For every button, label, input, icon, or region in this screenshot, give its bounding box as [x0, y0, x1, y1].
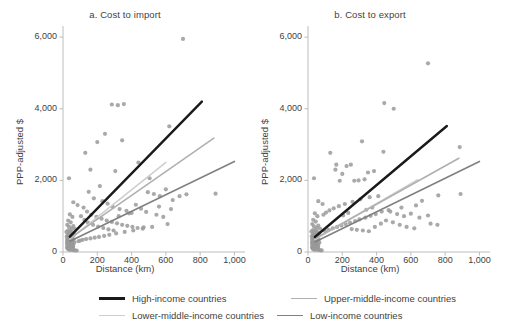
legend-label-low-income: Low-income countries — [310, 310, 402, 321]
legend-label-upper-middle-income: Upper-middle-income countries — [324, 293, 456, 304]
legend-line-icon-high-income — [99, 297, 125, 299]
chart-legend: High-income countries Upper-middle-incom… — [0, 288, 505, 329]
y-tick-label: 4,000 — [260, 103, 302, 113]
legend-item-high-income[interactable]: High-income countries — [99, 290, 227, 307]
legend-item-lower-middle-income[interactable]: Lower-middle-income countries — [99, 307, 264, 324]
legend-label-high-income: High-income countries — [132, 293, 227, 304]
y-tick-label: 6,000 — [15, 31, 57, 41]
legend-row-bottom: Lower-middle-income countries Low-income… — [0, 307, 505, 324]
panel-b-plot-area — [245, 0, 495, 285]
legend-label-lower-middle-income: Lower-middle-income countries — [132, 310, 264, 321]
y-tick-label: 6,000 — [260, 31, 302, 41]
y-tick-label: 2,000 — [260, 174, 302, 184]
figure-root: a. Cost to import PPP-adjusted $ Distanc… — [0, 0, 505, 329]
y-tick-label: 4,000 — [15, 103, 57, 113]
chart-panel-cost-to-export: b. Cost to export PPP-adjusted $ Distanc… — [245, 0, 495, 285]
legend-item-upper-middle-income[interactable]: Upper-middle-income countries — [291, 290, 456, 307]
y-tick-label: 2,000 — [15, 174, 57, 184]
regression-line — [70, 138, 214, 238]
chart-panel-cost-to-import: a. Cost to import PPP-adjusted $ Distanc… — [0, 0, 250, 285]
regression-line — [315, 161, 480, 242]
legend-item-low-income[interactable]: Low-income countries — [277, 307, 402, 324]
legend-row-top: High-income countries Upper-middle-incom… — [0, 290, 505, 307]
regression-line — [315, 126, 447, 237]
panel-a-plot-area — [0, 0, 250, 285]
x-tick-label: 1,000 — [457, 255, 501, 265]
legend-line-icon-upper-middle-income — [291, 298, 317, 300]
legend-line-icon-low-income — [277, 315, 303, 317]
legend-line-icon-lower-middle-income — [99, 315, 125, 317]
